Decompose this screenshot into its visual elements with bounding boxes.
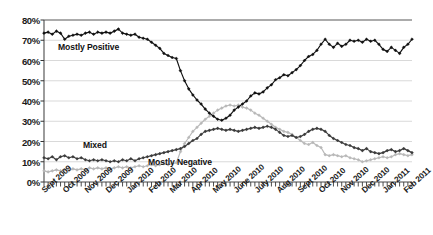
data-point xyxy=(109,160,112,163)
series-mostly-negative xyxy=(42,104,413,174)
data-point xyxy=(369,158,372,161)
data-point xyxy=(42,156,45,159)
data-point xyxy=(92,167,95,170)
data-point xyxy=(129,34,132,37)
data-point xyxy=(353,157,356,160)
data-point xyxy=(113,166,116,169)
data-point xyxy=(286,135,289,138)
series-label-mostly-negative: Mostly Negative xyxy=(148,157,212,167)
data-point xyxy=(171,149,174,152)
data-point xyxy=(406,154,409,157)
data-point xyxy=(142,37,145,40)
data-point xyxy=(382,155,385,158)
data-point xyxy=(208,129,211,132)
data-point xyxy=(162,151,165,154)
data-point xyxy=(332,153,335,156)
data-point xyxy=(76,33,79,36)
data-point xyxy=(233,129,236,132)
data-point xyxy=(125,33,128,36)
data-point xyxy=(71,34,74,37)
data-point xyxy=(133,165,136,168)
data-point xyxy=(373,151,376,154)
data-point xyxy=(266,125,269,128)
data-point xyxy=(179,69,182,72)
data-point xyxy=(100,32,103,35)
data-point xyxy=(51,169,54,172)
data-point xyxy=(328,154,331,157)
data-point xyxy=(104,31,107,34)
data-point xyxy=(166,150,169,153)
data-point xyxy=(158,152,161,155)
data-point xyxy=(142,165,145,168)
data-point xyxy=(373,157,376,160)
data-point xyxy=(42,169,45,172)
data-point xyxy=(315,127,318,130)
series-label-mostly-positive: Mostly Positive xyxy=(58,42,119,52)
data-point xyxy=(175,57,178,60)
data-point xyxy=(96,166,99,169)
data-point xyxy=(229,128,232,131)
data-point xyxy=(245,128,248,131)
data-point xyxy=(220,128,223,131)
data-point xyxy=(216,127,219,130)
data-point xyxy=(377,156,380,159)
data-point xyxy=(377,152,380,155)
data-point xyxy=(154,153,157,156)
data-point xyxy=(92,158,95,161)
data-point xyxy=(249,127,252,130)
data-point xyxy=(42,32,45,35)
data-point xyxy=(336,154,339,157)
data-point xyxy=(233,105,236,108)
data-point xyxy=(175,148,178,151)
data-point xyxy=(212,128,215,131)
data-point xyxy=(229,104,232,107)
data-point xyxy=(386,156,389,159)
data-point xyxy=(398,152,401,155)
data-point xyxy=(117,165,120,168)
data-point xyxy=(224,129,227,132)
data-point xyxy=(262,126,265,129)
data-point xyxy=(253,126,256,129)
data-point xyxy=(340,155,343,158)
data-point xyxy=(142,156,145,159)
data-point xyxy=(257,127,260,130)
data-point xyxy=(241,129,244,132)
data-point xyxy=(402,153,405,156)
series-label-mixed: Mixed xyxy=(83,140,107,150)
data-point xyxy=(47,170,50,173)
data-point xyxy=(100,158,103,161)
data-point xyxy=(237,130,240,133)
data-point xyxy=(138,164,141,167)
